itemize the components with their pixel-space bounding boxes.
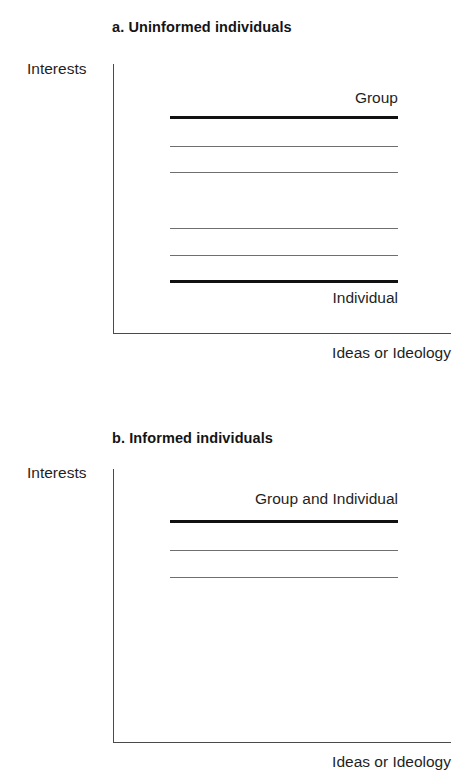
panel-a-line-thin-2	[170, 172, 398, 173]
panel-a-x-axis-label: Ideas or Ideology	[271, 344, 451, 362]
panel-b-line-thin-2	[170, 577, 398, 578]
panel-b-x-axis-label: Ideas or Ideology	[271, 753, 451, 771]
panel-a-line-individual	[170, 280, 398, 283]
panel-b-series-label-group-and-individual: Group and Individual	[198, 490, 398, 508]
panel-b-line-group-and-individual	[170, 520, 398, 523]
panel-b-y-axis-label: Interests	[27, 464, 86, 482]
panel-b-title: b. Informed individuals	[112, 430, 273, 446]
panel-a-series-label-individual: Individual	[228, 289, 398, 307]
panel-a-y-axis	[113, 64, 114, 334]
panel-informed-individuals: b. Informed individuals Interests Group …	[0, 390, 467, 777]
panel-b-x-axis	[113, 742, 451, 743]
panel-a-y-axis-label: Interests	[27, 60, 86, 78]
panel-a-line-thin-3	[170, 228, 398, 229]
panel-a-title: a. Uninformed individuals	[112, 19, 292, 35]
panel-b-line-thin-1	[170, 550, 398, 551]
panel-a-line-group	[170, 116, 398, 119]
panel-b-y-axis	[113, 469, 114, 742]
panel-a-x-axis	[113, 333, 451, 334]
panel-a-series-label-group: Group	[248, 89, 398, 107]
panel-a-line-thin-1	[170, 146, 398, 147]
panel-uninformed-individuals: a. Uninformed individuals Interests Grou…	[0, 0, 467, 390]
panel-a-line-thin-4	[170, 255, 398, 256]
